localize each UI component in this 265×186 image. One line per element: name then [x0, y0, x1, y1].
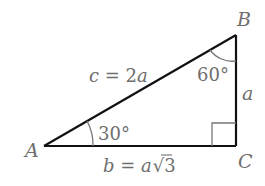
side-hypotenuse	[44, 35, 236, 146]
side-label-c: c = 2a	[89, 65, 148, 86]
vertex-label-c: C	[238, 150, 253, 172]
angle-label-b: 60°	[197, 64, 229, 85]
side-label-b: b = a√3	[103, 155, 176, 176]
triangle-diagram: A B C 30° 60° c = 2a a b = a√3	[0, 0, 265, 186]
vertex-label-a: A	[23, 139, 39, 161]
right-angle-marker	[212, 123, 236, 146]
angle-label-a: 30°	[98, 123, 130, 144]
angle-arc-a	[87, 121, 93, 146]
vertex-label-b: B	[236, 8, 251, 30]
angle-arc-b	[210, 50, 236, 61]
side-label-a: a	[242, 82, 253, 104]
